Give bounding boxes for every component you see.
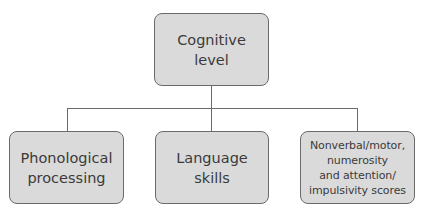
- node-label: Cognitive level: [177, 30, 246, 70]
- connector-to-language: [211, 108, 212, 131]
- node-label: Phonological processing: [21, 148, 113, 188]
- node-nonverbal-numerosity-attention: Nonverbal/motor, numerosity and attentio…: [300, 131, 415, 204]
- connector-to-nonverbal: [357, 108, 358, 131]
- node-cognitive-level: Cognitive level: [154, 13, 269, 86]
- node-language-skills: Language skills: [155, 131, 269, 204]
- connector-horizontal-bus: [67, 108, 358, 109]
- connector-to-phonological: [67, 108, 68, 131]
- connector-root-stem: [211, 86, 212, 108]
- node-phonological-processing: Phonological processing: [9, 131, 124, 204]
- node-label: Language skills: [176, 148, 248, 188]
- node-label: Nonverbal/motor, numerosity and attentio…: [309, 138, 406, 198]
